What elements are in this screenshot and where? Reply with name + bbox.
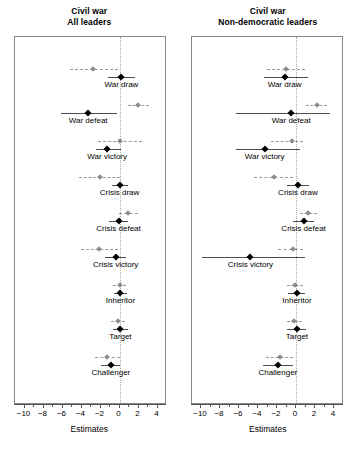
panel-all-leaders: Civil war All leaders War drawWar defeat…	[0, 0, 179, 450]
panel-title-left: Civil war All leaders	[0, 0, 179, 28]
estimate-point	[90, 67, 96, 73]
category-label: Crisis draw	[278, 188, 318, 197]
estimate-point	[96, 247, 102, 253]
estimate-point	[314, 103, 320, 109]
panel-title-right-line1: Civil war	[179, 6, 357, 17]
category-label: Target	[109, 332, 131, 341]
x-axis-minor-tick	[128, 404, 129, 407]
x-axis-minor-tick	[90, 404, 91, 407]
x-axis-minor-tick	[33, 404, 34, 407]
category-label: Crisis victory	[93, 260, 138, 269]
x-axis-tick-label: 2	[135, 409, 139, 418]
coefficient-plot-figure: Civil war All leaders War drawWar defeat…	[0, 0, 357, 450]
x-axis-tick-label: −6	[233, 409, 242, 418]
x-axis-tick	[24, 404, 25, 408]
x-axis-minor-tick	[52, 404, 53, 407]
category-label: War victory	[245, 152, 285, 161]
x-axis-label-left: Estimates	[0, 424, 179, 434]
x-axis-tick	[200, 404, 201, 408]
category-label: War defeat	[272, 116, 311, 125]
x-axis-tick-label: −10	[193, 409, 207, 418]
estimate-point	[271, 175, 277, 181]
x-axis-minor-tick	[324, 404, 325, 407]
estimate-point	[292, 283, 298, 289]
x-axis-tick	[333, 404, 334, 408]
x-axis-minor-tick	[248, 404, 249, 407]
estimate-point	[104, 355, 110, 361]
x-axis-minor-tick	[109, 404, 110, 407]
category-label: Crisis victory	[228, 260, 273, 269]
x-axis-tick-label: 0	[293, 409, 297, 418]
x-axis-minor-tick	[210, 404, 211, 407]
x-axis-minor-tick	[267, 404, 268, 407]
x-axis-minor-tick	[305, 404, 306, 407]
x-axis-tick	[314, 404, 315, 408]
panel-title-left-line1: Civil war	[0, 6, 179, 17]
x-axis-left: −10−8−6−4−2024	[14, 404, 166, 405]
x-axis-tick-label: 2	[312, 409, 316, 418]
x-axis-tick	[100, 404, 101, 408]
x-axis-tick	[81, 404, 82, 408]
estimate-point	[118, 139, 124, 145]
x-axis-minor-tick	[71, 404, 72, 407]
x-axis-tick-label: −10	[17, 409, 31, 418]
category-label: Crisis defeat	[96, 224, 140, 233]
x-axis-minor-tick	[147, 404, 148, 407]
confidence-interval-line	[271, 141, 302, 142]
x-axis-tick-label: −2	[95, 409, 104, 418]
x-axis-label-right: Estimates	[179, 424, 357, 434]
x-axis-tick	[62, 404, 63, 408]
x-axis-tick	[238, 404, 239, 408]
estimate-point	[117, 283, 123, 289]
x-axis-tick-label: 4	[331, 409, 335, 418]
category-label: War victory	[87, 152, 127, 161]
x-axis-tick-label: −8	[214, 409, 223, 418]
category-label: Crisis draw	[100, 188, 140, 197]
estimate-point	[277, 355, 283, 361]
x-axis-tick	[257, 404, 258, 408]
plot-area-right: War drawWar defeatWar victoryCrisis draw…	[191, 36, 343, 404]
confidence-interval-line	[236, 113, 330, 114]
x-axis-tick	[157, 404, 158, 408]
x-axis-tick	[295, 404, 296, 408]
estimate-point	[283, 67, 289, 73]
estimate-point	[135, 103, 141, 109]
x-axis-right: −10−8−6−4−2024	[191, 404, 343, 405]
x-axis-minor-tick	[286, 404, 287, 407]
panel-title-left-line2: All leaders	[0, 17, 179, 28]
estimate-point	[306, 211, 312, 217]
x-axis-tick	[138, 404, 139, 408]
estimate-point	[125, 211, 131, 217]
category-label: Crisis defeat	[281, 224, 325, 233]
x-axis-minor-tick	[229, 404, 230, 407]
category-label: Challenger	[259, 368, 298, 377]
category-label: War defeat	[69, 116, 108, 125]
panel-title-right-line2: Non-democratic leaders	[179, 17, 357, 28]
x-axis-tick-label: −2	[271, 409, 280, 418]
x-axis-tick-label: −6	[57, 409, 66, 418]
x-axis-tick-label: −4	[252, 409, 261, 418]
plot-area-left: War drawWar defeatWar victoryCrisis draw…	[14, 36, 166, 404]
x-axis-tick	[119, 404, 120, 408]
x-axis-tick-label: −4	[76, 409, 85, 418]
category-label: War draw	[268, 80, 302, 89]
x-axis-tick-label: 0	[116, 409, 120, 418]
estimate-point	[97, 175, 103, 181]
x-axis-tick	[43, 404, 44, 408]
confidence-interval-line	[202, 257, 305, 258]
category-label: Inheritor	[282, 296, 311, 305]
zero-reference-line-right	[296, 37, 297, 403]
category-label: Target	[286, 332, 308, 341]
x-axis-tick	[276, 404, 277, 408]
panel-title-right: Civil war Non-democratic leaders	[179, 0, 357, 28]
panel-non-democratic-leaders: Civil war Non-democratic leaders War dra…	[179, 0, 357, 450]
category-label: War draw	[104, 80, 138, 89]
estimate-point	[289, 139, 295, 145]
x-axis-tick-label: −8	[38, 409, 47, 418]
x-axis-tick	[219, 404, 220, 408]
category-label: Challenger	[92, 368, 131, 377]
x-axis-tick-label: 4	[154, 409, 158, 418]
category-label: Inheritor	[106, 296, 135, 305]
